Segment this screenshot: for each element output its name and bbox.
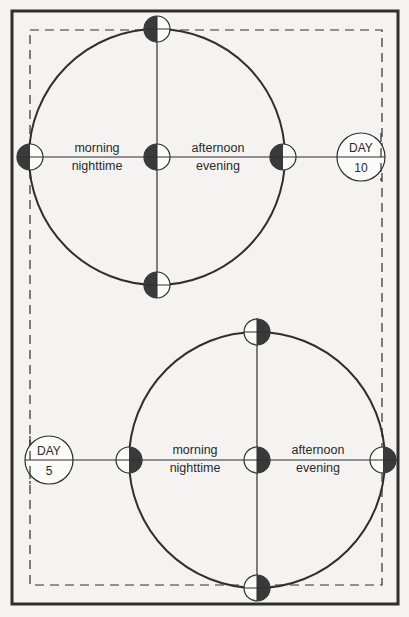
label-nighttime: nighttime <box>72 159 123 173</box>
moon-marker-right <box>370 447 396 473</box>
dashed-border <box>30 30 382 585</box>
moon-marker-bottom <box>144 272 170 298</box>
day-number: 5 <box>46 464 53 478</box>
day-number: 10 <box>354 161 368 175</box>
moon-marker-center <box>244 447 270 473</box>
label-morning: morning <box>172 443 217 457</box>
moon-marker-top <box>144 16 170 42</box>
diagram-day-10: morning nighttime afternoon evening DAY … <box>17 16 385 298</box>
label-morning: morning <box>74 141 119 155</box>
label-afternoon: afternoon <box>192 141 245 155</box>
day-label: DAY <box>349 141 373 155</box>
label-afternoon: afternoon <box>292 443 345 457</box>
moon-marker-top <box>244 319 270 345</box>
label-nighttime: nighttime <box>170 461 221 475</box>
moon-marker-right <box>270 144 296 170</box>
moon-marker-left <box>17 144 43 170</box>
day-badge-10: DAY 10 <box>337 133 385 181</box>
moon-marker-center <box>144 144 170 170</box>
outer-frame <box>12 11 398 604</box>
day-label: DAY <box>37 444 61 458</box>
diagram-day-5: morning nighttime afternoon evening DAY … <box>25 318 397 601</box>
moon-marker-left <box>116 447 142 473</box>
moon-phase-diagram: morning nighttime afternoon evening DAY … <box>0 0 409 617</box>
day-badge-5: DAY 5 <box>25 436 73 484</box>
label-evening: evening <box>196 159 240 173</box>
label-evening: evening <box>296 461 340 475</box>
moon-marker-bottom <box>244 575 270 601</box>
